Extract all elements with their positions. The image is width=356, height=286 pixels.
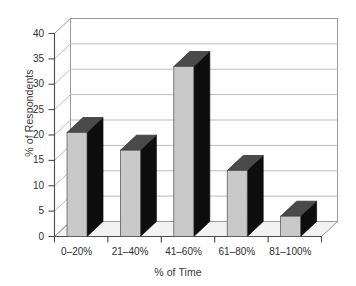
y-tick-label-0: 0 [20,232,44,242]
bar-21-40 [120,135,156,236]
chart-plot-area [0,0,356,286]
y-tick-label-5: 5 [20,206,44,216]
y-axis [49,34,55,237]
x-tick-label-0-20: 0–20% [47,247,107,257]
x-tick-label-21-40: 21–40% [100,247,160,257]
x-tick-label-61-80: 61–80% [207,247,267,257]
x-tick-label-81-100: 81–100% [260,247,320,257]
x-tick-label-41-60: 41–60% [154,247,214,257]
bar-61-80 [227,156,263,237]
y-axis-title: % of Respondents [23,33,35,193]
bar-41-60 [174,52,210,237]
bar-0-20 [67,118,103,237]
x-axis-title: % of Time [0,266,356,278]
bar-chart: 40 35 30 25 20 15 10 5 0 0–20% 21–40% 41… [0,0,356,286]
x-axis [55,237,322,243]
